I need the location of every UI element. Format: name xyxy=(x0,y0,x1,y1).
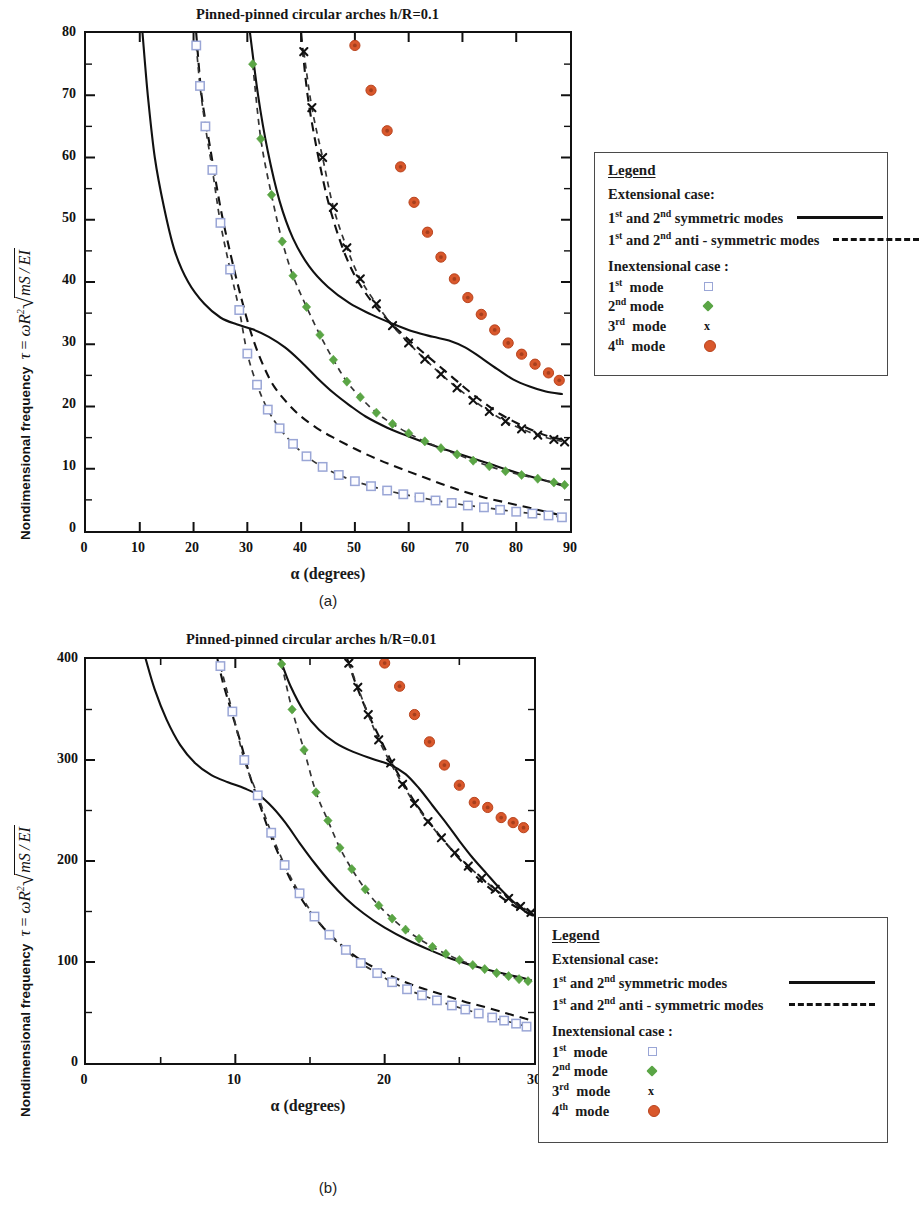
legend-symbol-mode2 xyxy=(704,302,734,310)
x-tick-b-20: 20 xyxy=(364,1072,404,1088)
legend-symbol-mode1 xyxy=(704,282,734,291)
chart-title-a: Pinned-pinned circular arches h/R=0.1 xyxy=(196,6,439,23)
legend-extensional-heading: Extensional case: xyxy=(608,186,875,203)
y-tick-a-80: 80 xyxy=(46,24,76,40)
green-diamond-icon xyxy=(702,300,713,311)
y-tick-b-200: 200 xyxy=(33,852,78,868)
legend-row-mode4: 4th mode xyxy=(552,1101,875,1120)
legend-label-mode2: 2nd mode xyxy=(552,1061,648,1080)
legend-row-mode2: 2nd mode xyxy=(608,296,875,315)
legend-row-symmetric: 1st and 2nd symmetric modes xyxy=(552,973,875,992)
legend-row-mode3: 3rd mode x xyxy=(608,316,875,335)
plot-area-a xyxy=(84,31,572,533)
orange-circle-icon xyxy=(704,340,716,352)
x-tick-a-60: 60 xyxy=(388,540,428,556)
legend-extensional-heading: Extensional case: xyxy=(552,951,875,968)
x-tick-a-80: 80 xyxy=(496,540,536,556)
x-tick-a-40: 40 xyxy=(280,540,320,556)
figure-panel-a: Pinned-pinned circular arches h/R=0.1 No… xyxy=(0,0,900,612)
y-tick-a-50: 50 xyxy=(46,210,76,226)
figure-panel-b: Pinned-pinned circular arches h/R=0.01 N… xyxy=(0,612,900,1213)
legend-symbol-mode4 xyxy=(648,1105,678,1117)
x-axis-label-b: α (degrees) xyxy=(208,1097,408,1115)
y-tick-a-60: 60 xyxy=(46,148,76,164)
legend-b: Legend Extensional case: 1st and 2nd sym… xyxy=(538,917,888,1143)
legend-sample-dashed-line xyxy=(819,238,919,241)
x-marker-icon: x xyxy=(704,320,710,332)
legend-symbol-mode3: x xyxy=(704,320,734,332)
chart-title-b: Pinned-pinned circular arches h/R=0.01 xyxy=(186,631,437,648)
x-tick-a-90: 90 xyxy=(550,540,590,556)
x-tick-a-70: 70 xyxy=(442,540,482,556)
legend-row-mode2: 2nd mode xyxy=(552,1061,875,1080)
legend-label-mode3: 3rd mode xyxy=(552,1081,648,1100)
legend-sample-solid-line xyxy=(775,981,875,984)
y-tick-b-100: 100 xyxy=(33,953,78,969)
open-square-icon xyxy=(704,282,713,291)
legend-row-mode1: 1st mode xyxy=(552,1042,875,1061)
x-tick-a-50: 50 xyxy=(334,540,374,556)
legend-symbol-mode4 xyxy=(704,340,734,352)
y-tick-a-30: 30 xyxy=(46,334,76,350)
y-tick-b-400: 400 xyxy=(33,650,78,666)
y-tick-a-40: 40 xyxy=(46,272,76,288)
x-tick-b-0: 0 xyxy=(64,1072,104,1088)
legend-row-mode1: 1st mode xyxy=(608,277,875,296)
legend-symbol-mode2 xyxy=(648,1067,678,1075)
legend-label-symmetric: 1st and 2nd symmetric modes xyxy=(608,208,783,227)
plot-canvas-a xyxy=(86,33,570,531)
legend-sample-dashed-line xyxy=(775,1003,875,1006)
legend-label-antisymmetric: 1st and 2nd anti - symmetric modes xyxy=(608,230,819,249)
legend-symbol-mode1 xyxy=(648,1047,678,1056)
legend-label-symmetric: 1st and 2nd symmetric modes xyxy=(552,973,727,992)
open-square-icon xyxy=(648,1047,657,1056)
x-marker-icon: x xyxy=(648,1085,654,1097)
legend-row-mode3: 3rd mode x xyxy=(552,1081,875,1100)
legend-label-mode2: 2nd mode xyxy=(608,296,704,315)
legend-inextensional-heading: Inextensional case : xyxy=(608,258,875,275)
y-tick-a-0: 0 xyxy=(46,520,76,536)
panel-letter-a: (a) xyxy=(288,592,368,609)
legend-sample-solid-line xyxy=(783,216,883,219)
legend-label-antisymmetric: 1st and 2nd anti - symmetric modes xyxy=(552,995,763,1014)
plot-canvas-b xyxy=(86,659,534,1063)
y-axis-label-a: Nondimensional frequency τ = ωR2√mS / EI xyxy=(14,248,35,540)
legend-inextensional-heading: Inextensional case : xyxy=(552,1023,875,1040)
y-tick-b-0: 0 xyxy=(33,1054,78,1070)
y-tick-a-10: 10 xyxy=(46,458,76,474)
x-tick-a-0: 0 xyxy=(64,540,104,556)
orange-circle-icon xyxy=(648,1105,660,1117)
x-tick-a-30: 30 xyxy=(226,540,266,556)
y-axis-label-b: Nondimensional frequency τ = ωR2√mS / EI xyxy=(14,825,35,1117)
x-tick-b-10: 10 xyxy=(214,1072,254,1088)
legend-label-mode4: 4th mode xyxy=(552,1101,648,1120)
x-axis-label-a: α (degrees) xyxy=(228,565,428,583)
plot-area-b xyxy=(84,657,536,1065)
x-tick-a-10: 10 xyxy=(118,540,158,556)
legend-label-mode3: 3rd mode xyxy=(608,316,704,335)
legend-row-symmetric: 1st and 2nd symmetric modes xyxy=(608,208,875,227)
legend-label-mode1: 1st mode xyxy=(608,277,704,296)
legend-row-antisymmetric: 1st and 2nd anti - symmetric modes xyxy=(552,995,875,1014)
legend-label-mode1: 1st mode xyxy=(552,1042,648,1061)
legend-row-mode4: 4th mode xyxy=(608,336,875,355)
y-tick-a-20: 20 xyxy=(46,396,76,412)
legend-title: Legend xyxy=(608,162,875,179)
legend-row-antisymmetric: 1st and 2nd anti - symmetric modes xyxy=(608,230,875,249)
panel-letter-b: (b) xyxy=(288,1179,368,1196)
y-tick-b-300: 300 xyxy=(33,751,78,767)
green-diamond-icon xyxy=(646,1065,657,1076)
legend-symbol-mode3: x xyxy=(648,1085,678,1097)
y-tick-a-70: 70 xyxy=(46,86,76,102)
legend-title: Legend xyxy=(552,927,875,944)
x-tick-a-20: 20 xyxy=(172,540,212,556)
legend-a: Legend Extensional case: 1st and 2nd sym… xyxy=(594,152,888,376)
legend-label-mode4: 4th mode xyxy=(608,336,704,355)
